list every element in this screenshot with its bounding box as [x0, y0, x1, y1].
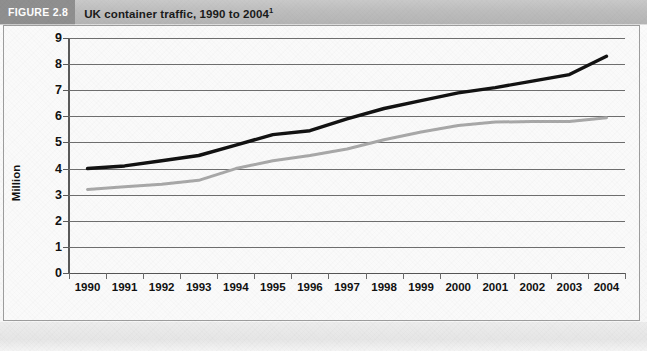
y-tick-label: 3	[55, 188, 62, 202]
y-tick-label: 0	[55, 266, 62, 280]
x-tick-mark	[551, 273, 552, 279]
x-tick-label: 1997	[334, 281, 360, 293]
series-lines	[69, 38, 625, 273]
x-tick-label: 2001	[482, 281, 508, 293]
y-tick-label: 1	[55, 240, 62, 254]
x-tick-mark	[440, 273, 441, 279]
x-tick-label: 1995	[260, 281, 286, 293]
x-tick-mark	[403, 273, 404, 279]
series-line-grey	[88, 118, 607, 190]
x-tick-mark	[328, 273, 329, 279]
x-tick-label: 1993	[186, 281, 212, 293]
x-axis-labels: 1990199119921993199419951996199719981999…	[69, 281, 625, 301]
x-tick-mark	[143, 273, 144, 279]
y-tick-label: 6	[55, 109, 62, 123]
plot-region: 0123456789 19901991199219931994199519961…	[69, 38, 625, 273]
x-tick-label: 2004	[594, 281, 620, 293]
figure-title-footnote-marker: 1	[269, 6, 273, 15]
x-tick-label: 2002	[520, 281, 546, 293]
x-tick-mark	[588, 273, 589, 279]
x-tick-mark	[254, 273, 255, 279]
x-tick-mark	[514, 273, 515, 279]
x-tick-label: 1999	[408, 281, 434, 293]
y-tick-label: 5	[55, 135, 62, 149]
y-axis-title: Million	[0, 174, 51, 192]
x-tick-label: 1990	[75, 281, 101, 293]
x-axis-ticks	[69, 273, 625, 280]
x-tick-mark	[625, 273, 626, 279]
x-tick-mark	[291, 273, 292, 279]
figure-bottom-band	[0, 322, 647, 351]
x-tick-label: 1994	[223, 281, 249, 293]
figure-container: FIGURE 2.8 UK container traffic, 1990 to…	[0, 0, 647, 351]
y-tick-label: 2	[55, 214, 62, 228]
x-tick-mark	[477, 273, 478, 279]
y-tick-label: 7	[55, 83, 62, 97]
x-tick-label: 2000	[445, 281, 471, 293]
x-tick-mark	[106, 273, 107, 279]
x-tick-mark	[69, 273, 70, 279]
x-tick-label: 1992	[149, 281, 175, 293]
y-tick-label: 4	[55, 162, 62, 176]
x-tick-label: 2003	[557, 281, 583, 293]
figure-title-band: FIGURE 2.8 UK container traffic, 1990 to…	[0, 0, 647, 25]
x-tick-label: 1991	[112, 281, 138, 293]
y-tick-label: 8	[55, 57, 62, 71]
y-tick-label: 9	[55, 31, 62, 45]
chart-area: Million 0123456789 199019911992199319941…	[3, 26, 640, 320]
figure-title-text: UK container traffic, 1990 to 2004	[84, 7, 269, 19]
x-tick-label: 1998	[371, 281, 397, 293]
x-tick-mark	[180, 273, 181, 279]
series-line-black	[88, 56, 607, 168]
figure-number-badge: FIGURE 2.8	[0, 0, 75, 25]
x-tick-mark	[366, 273, 367, 279]
figure-title: UK container traffic, 1990 to 20041	[84, 6, 273, 20]
x-tick-mark	[217, 273, 218, 279]
x-tick-label: 1996	[297, 281, 323, 293]
